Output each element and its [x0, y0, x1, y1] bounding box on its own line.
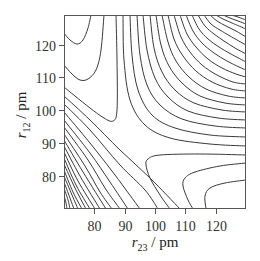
y-tick-label: 120 [35, 39, 56, 54]
contour-line-repulsive [64, 146, 100, 209]
y-tick-label: 110 [36, 71, 56, 86]
contour-line-product-valley [64, 15, 91, 44]
contour-line-reactant-valley [205, 180, 246, 209]
y-tick-label: 100 [35, 104, 56, 119]
x-axis-ticks: 8090100110120 [88, 209, 228, 234]
x-tick-label: 100 [145, 219, 166, 234]
x-tick-label: 110 [175, 219, 195, 234]
contour-line-plateau [156, 15, 246, 105]
y-axis-label: r12 / pm [13, 91, 32, 138]
contour-lines [64, 15, 246, 209]
contour-line-plateau [186, 15, 246, 70]
y-tick-label: 90 [42, 137, 56, 152]
contour-line-product-valley [64, 15, 104, 80]
y-axis-ticks: 8090100110120 [35, 39, 64, 185]
contour-line-repulsive [64, 96, 180, 209]
x-tick-label: 90 [119, 219, 133, 234]
contour-chart: 8090100110120 8090100110120 r23 / pm r12… [0, 0, 260, 261]
contour-line-plateau [168, 15, 246, 91]
x-axis-label: r23 / pm [132, 234, 179, 253]
contour-line-product-valley [64, 15, 117, 121]
plot-frame [65, 16, 246, 209]
x-tick-label: 120 [206, 219, 227, 234]
contour-line-plateau [162, 15, 246, 98]
y-tick-label: 80 [42, 170, 56, 185]
x-tick-label: 80 [88, 219, 102, 234]
